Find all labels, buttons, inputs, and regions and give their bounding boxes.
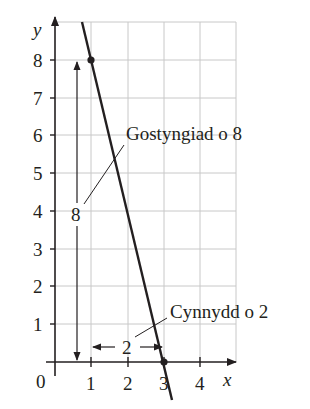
x-tick-1: 1	[86, 373, 96, 394]
increase-value-label: 2	[122, 337, 132, 358]
decrease-annotation: Gostyngiad o 8	[126, 123, 242, 144]
y-tick-6: 6	[33, 125, 43, 146]
y-tick-7: 7	[33, 88, 43, 109]
origin-label: 0	[36, 371, 46, 392]
increase-leader-line	[135, 318, 167, 337]
y-axis-label: y	[31, 19, 42, 40]
y-tick-5: 5	[33, 163, 43, 184]
x-axis-label: x	[222, 369, 232, 390]
y-tick-2: 2	[33, 276, 43, 297]
x-tick-4: 4	[195, 373, 205, 394]
y-tick-3: 3	[33, 239, 43, 260]
y-tick-8: 8	[33, 50, 43, 71]
y-tick-4: 4	[33, 201, 43, 222]
x-tick-2: 2	[123, 373, 133, 394]
point-3-0	[160, 358, 167, 365]
decrease-value-label: 8	[71, 204, 81, 225]
increase-annotation: Cynnydd o 2	[170, 301, 268, 322]
y-tick-1: 1	[33, 314, 43, 335]
point-1-8	[87, 56, 94, 63]
linear-graph-chart: y x 0 1 2 3 4 8 7 6 5 4 3 2 1 8 2 Gostyn…	[0, 0, 310, 409]
